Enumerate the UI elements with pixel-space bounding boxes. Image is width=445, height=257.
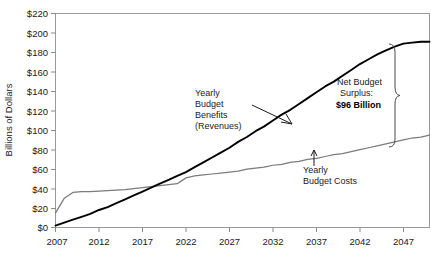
y-tick-label-40: $40 [32, 184, 48, 195]
costs-label-line-1: Yearly [303, 165, 328, 175]
budget-projection-chart: $220 $200 $180 $160 $140 $120 $100 $80 $… [0, 0, 445, 257]
surplus-label-line-2: Surplus: [340, 88, 373, 98]
x-axis-ticks [56, 228, 404, 233]
costs-label-line-2: Budget Costs [303, 176, 358, 186]
y-tick-label-100: $100 [27, 125, 48, 136]
y-tick-label-0: $0 [37, 222, 48, 233]
x-tick-label-2007: 2007 [46, 236, 67, 247]
x-tick-label-2022: 2022 [175, 236, 196, 247]
series-line-yearly-budget-benefits [56, 42, 430, 226]
benefits-label-line-3: Benefits [195, 110, 228, 120]
surplus-label-line-1: Net Budget [337, 77, 383, 87]
y-tick-label-220: $220 [27, 8, 48, 19]
x-tick-label-2032: 2032 [262, 236, 283, 247]
benefits-label-line-1: Yearly [195, 88, 220, 98]
y-tick-label-200: $200 [27, 28, 48, 39]
y-tick-label-160: $160 [27, 67, 48, 78]
x-tick-label-2027: 2027 [219, 236, 240, 247]
y-tick-label-180: $180 [27, 47, 48, 58]
y-axis-ticks [51, 14, 56, 228]
y-tick-label-20: $20 [32, 203, 48, 214]
y-tick-label-80: $80 [32, 145, 48, 156]
surplus-value-label: $96 Billion [336, 100, 381, 110]
benefits-label-line-2: Budget [195, 99, 224, 109]
x-tick-label-2042: 2042 [349, 236, 370, 247]
x-tick-label-2012: 2012 [88, 236, 109, 247]
y-tick-label-140: $140 [27, 86, 48, 97]
series-line-yearly-budget-costs [56, 135, 430, 213]
x-tick-label-2017: 2017 [132, 236, 153, 247]
y-tick-label-120: $120 [27, 106, 48, 117]
plot-area-frame [56, 14, 430, 228]
annotation-benefits: Yearly Budget Benefits (Revenues) [195, 88, 292, 131]
benefits-label-line-4: (Revenues) [195, 121, 242, 131]
surplus-brace [389, 44, 400, 147]
y-axis-title: Billions of Dollars [3, 83, 14, 156]
y-tick-label-60: $60 [32, 164, 48, 175]
x-tick-label-2047: 2047 [393, 236, 414, 247]
x-tick-label-2037: 2037 [306, 236, 327, 247]
benefits-arrowhead [281, 114, 292, 124]
